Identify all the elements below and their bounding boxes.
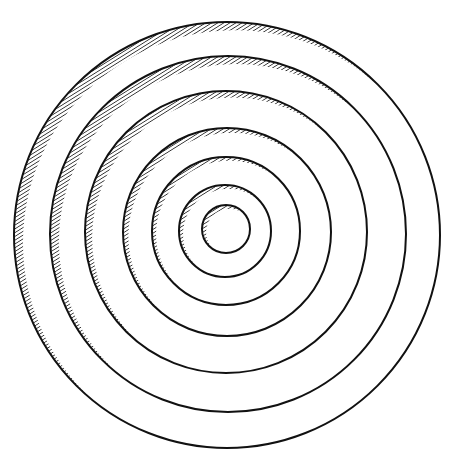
- circles-artwork: [0, 0, 454, 472]
- hatch-crescent-7: [200, 203, 252, 255]
- concentric-circles-figure: [0, 0, 454, 472]
